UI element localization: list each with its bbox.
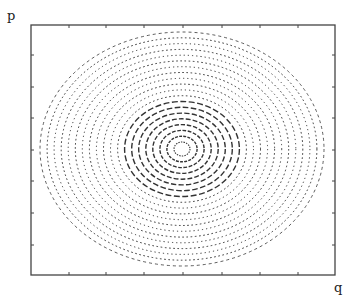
contour-ellipse <box>68 55 296 243</box>
contour-ellipse <box>174 142 190 156</box>
contour-ellipse <box>132 107 233 190</box>
contour-ellipse <box>104 84 261 214</box>
x-axis-label: q <box>334 280 342 295</box>
phase-portrait-plot <box>0 0 357 305</box>
contour-ellipse <box>54 44 310 255</box>
contour-ellipse <box>139 113 226 185</box>
contour-ellipse <box>146 119 218 179</box>
ellipse-contours <box>40 32 324 266</box>
contour-ellipse <box>153 125 211 174</box>
contour-ellipse <box>47 38 317 260</box>
contour-ellipse <box>96 78 267 219</box>
y-axis-label: p <box>7 8 15 23</box>
contour-ellipse <box>118 96 247 203</box>
contour-ellipse <box>82 67 281 232</box>
contour-ellipse <box>125 102 240 197</box>
contour-ellipse <box>75 61 288 237</box>
contour-ellipse <box>61 49 303 248</box>
contour-ellipse <box>167 136 197 162</box>
